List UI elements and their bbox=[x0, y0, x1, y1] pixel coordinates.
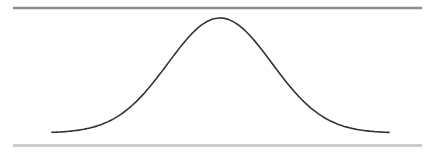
bell-curve-chart bbox=[0, 0, 438, 155]
normal-distribution-curve bbox=[52, 18, 389, 132]
